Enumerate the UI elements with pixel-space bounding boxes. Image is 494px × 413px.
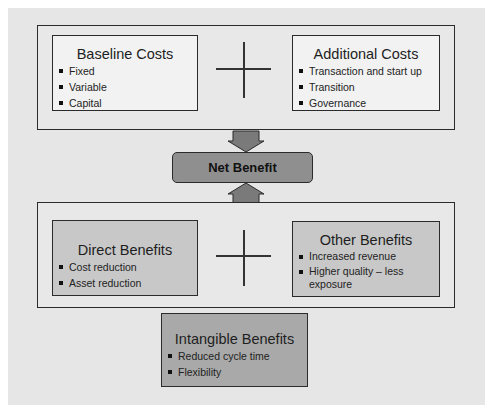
list-item: Variable <box>59 79 197 95</box>
list-item: Governance <box>299 95 439 111</box>
additional-costs-box: Additional Costs Transaction and start u… <box>292 35 440 111</box>
direct-benefits-title: Direct Benefits <box>53 242 197 259</box>
list-item: Cost reduction <box>59 259 197 275</box>
net-benefit-box: Net Benefit <box>172 152 313 183</box>
intangible-benefits-title: Intangible Benefits <box>162 331 307 348</box>
net-benefit-label: Net Benefit <box>208 160 277 175</box>
baseline-costs-title: Baseline Costs <box>53 46 197 63</box>
baseline-costs-box: Baseline Costs Fixed Variable Capital <box>52 35 198 111</box>
list-item: Increased revenue <box>299 249 429 264</box>
list-item: Capital <box>59 95 197 111</box>
intangible-benefits-box: Intangible Benefits Reduced cycle time F… <box>161 313 308 387</box>
plus-icon-vertical <box>243 230 245 286</box>
plus-icon-vertical <box>243 42 245 98</box>
additional-costs-list: Transaction and start up Transition Gove… <box>293 63 439 111</box>
list-item: Transaction and start up <box>299 63 439 79</box>
additional-costs-title: Additional Costs <box>293 46 439 63</box>
other-benefits-title: Other Benefits <box>293 232 439 249</box>
list-item: Transition <box>299 79 439 95</box>
list-item: Higher quality – less exposure <box>299 264 429 291</box>
list-item: Fixed <box>59 63 197 79</box>
list-item: Asset reduction <box>59 275 197 291</box>
baseline-costs-list: Fixed Variable Capital <box>53 63 197 111</box>
other-benefits-list: Increased revenue Higher quality – less … <box>293 249 439 291</box>
direct-benefits-box: Direct Benefits Cost reduction Asset red… <box>52 220 198 296</box>
arrow-down-icon <box>228 131 264 153</box>
other-benefits-box: Other Benefits Increased revenue Higher … <box>292 221 440 297</box>
direct-benefits-list: Cost reduction Asset reduction <box>53 259 197 291</box>
list-item: Flexibility <box>168 364 307 380</box>
list-item: Reduced cycle time <box>168 348 307 364</box>
intangible-benefits-list: Reduced cycle time Flexibility <box>162 348 307 380</box>
arrow-up-icon <box>228 183 264 204</box>
